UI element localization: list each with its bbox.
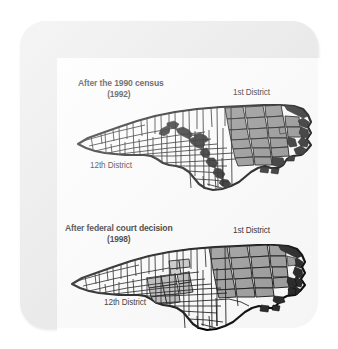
north-carolina-map-1998 xyxy=(69,236,309,333)
label-1st-district-1998: 1st District xyxy=(233,226,270,235)
figure-panel: After the 1990 census (1992) 1st Distric… xyxy=(57,58,321,333)
north-carolina-map-1992 xyxy=(75,96,315,194)
map-1998-counties xyxy=(72,245,305,330)
figure-frame: After the 1990 census (1992) 1st Distric… xyxy=(20,21,318,328)
map-1992-counties xyxy=(78,105,311,190)
map-title-1998-text: After federal court decision xyxy=(65,223,173,233)
map-title-1992-text: After the 1990 census xyxy=(78,78,164,88)
